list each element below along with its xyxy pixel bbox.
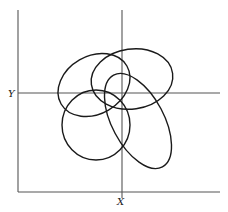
y-axis-label: Y xyxy=(8,88,16,99)
ellipse-upper-left xyxy=(47,41,142,129)
x-axis-label: X xyxy=(116,196,125,207)
ellipse-diagram: Y X xyxy=(0,0,228,212)
ellipse-group xyxy=(47,41,186,179)
ellipse-lower-right-elongated xyxy=(91,63,186,179)
ellipse-upper-right xyxy=(87,44,177,115)
ellipse-lower-left xyxy=(62,90,130,160)
